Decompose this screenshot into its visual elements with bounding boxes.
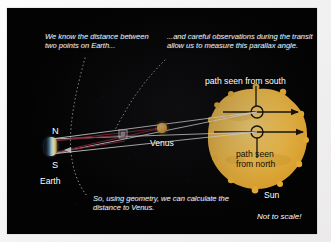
caption-bottom: So, using geometry, we can calculate the… bbox=[93, 194, 243, 213]
label-north-pole: N bbox=[52, 126, 59, 136]
label-south-pole: S bbox=[52, 160, 58, 170]
label-earth: Earth bbox=[40, 176, 61, 186]
caption-right: ...and careful observations during the t… bbox=[167, 32, 317, 51]
leader-curve-left bbox=[71, 58, 87, 196]
astronomy-figure-panel: We know the distance between two points … bbox=[7, 8, 317, 234]
caption-left: We know the distance between two points … bbox=[45, 32, 151, 51]
earth-disc bbox=[44, 137, 58, 156]
dotted-leaders bbox=[71, 58, 165, 196]
page-background: We know the distance between two points … bbox=[0, 0, 331, 242]
star-speckle bbox=[37, 48, 213, 205]
venus-body bbox=[155, 121, 170, 136]
leader-curve-right bbox=[115, 60, 165, 130]
label-path-seen-from-south: path seen from south bbox=[205, 76, 286, 86]
earth-globe bbox=[44, 137, 58, 156]
label-sun: Sun bbox=[264, 190, 279, 200]
label-venus: Venus bbox=[150, 138, 174, 148]
label-not-to-scale: Not to scale! bbox=[257, 212, 301, 222]
label-path-seen-from-north: path seen from north bbox=[236, 149, 275, 169]
